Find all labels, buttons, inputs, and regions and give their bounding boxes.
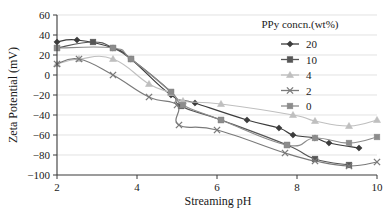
x-axis-title: Streaming pH [185,194,252,208]
data-point-marker [74,37,80,43]
chart-figure: 6040200−20−40−60−80−100246810 Streaming … [0,0,390,212]
data-point-marker [180,102,186,108]
legend-label-2: 2 [306,85,312,97]
y-tick-label-40: 40 [39,29,51,41]
data-point-marker [374,134,380,140]
data-point-marker [192,100,198,106]
x-tick-label-6: 6 [214,181,220,193]
data-point-marker [287,41,293,47]
data-point-marker [346,140,352,146]
grid-lines [57,15,377,155]
data-point-marker [146,81,153,87]
data-point-marker [168,89,174,95]
data-point-marker [374,117,381,123]
data-point-marker [90,39,96,45]
legend-item-4[interactable]: 4 [281,69,312,81]
zeta-potential-line-chart: 6040200−20−40−60−80−100246810 Streaming … [0,0,390,212]
y-tick-label-20: 20 [39,49,51,61]
legend-item-20[interactable]: 20 [281,38,318,50]
data-point-marker [287,57,293,63]
series-4 [54,56,381,129]
data-point-marker [276,125,282,131]
data-point-marker [290,132,296,138]
data-point-marker [346,162,352,168]
data-point-marker [287,103,293,109]
series-line-4 [57,56,377,126]
data-point-marker [176,122,182,128]
data-point-marker [110,45,116,51]
y-tick-label--20: −20 [33,89,51,101]
y-tick-label--100: −100 [27,169,50,181]
data-point-marker [326,140,332,146]
tick-labels-layer: 6040200−20−40−60−80−100246810 [27,9,383,193]
legend-label-4: 4 [306,69,312,81]
y-tick-label--80: −80 [33,149,51,161]
y-tick-label--40: −40 [33,109,51,121]
series-0 [54,45,380,148]
data-point-marker [284,142,290,148]
series-line-2 [57,58,377,166]
y-tick-label-0: 0 [45,69,51,81]
x-tick-label-8: 8 [294,181,300,193]
y-tick-label--60: −60 [33,129,51,141]
legend-title: PPy concn.(wt%) [262,18,339,31]
data-point-marker [244,117,250,123]
legend-label-20: 20 [306,38,318,50]
y-tick-label-60: 60 [39,9,51,21]
data-point-marker [312,135,318,141]
data-point-marker [218,117,224,123]
legend-label-10: 10 [306,54,318,66]
data-point-marker [356,145,362,151]
data-series-layer [54,37,381,169]
series-2 [54,56,380,169]
x-tick-label-4: 4 [134,181,140,193]
legend-label-0: 0 [306,100,312,112]
x-tick-label-2: 2 [54,181,60,193]
data-point-marker [128,56,134,62]
x-tick-label-10: 10 [372,181,384,193]
legend-item-0[interactable]: 0 [281,100,312,112]
series-line-0 [57,47,377,146]
y-axis-title: Zeta Potential (mV) [6,47,20,143]
